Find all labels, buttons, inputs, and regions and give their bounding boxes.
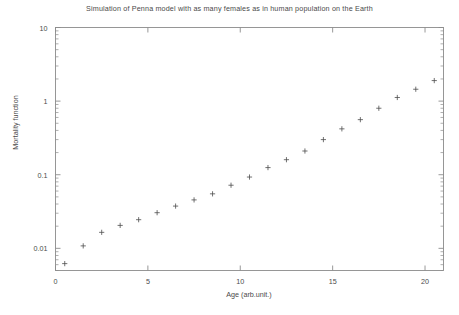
plot-frame (56, 28, 444, 271)
chart-figure: Simulation of Penna model with as many f… (0, 0, 459, 315)
y-axis-tick-label: 0.01 (0, 244, 48, 253)
y-axis-tick-label: 0.1 (0, 170, 48, 179)
data-point-marker (284, 157, 289, 162)
plot-area (0, 0, 459, 315)
data-point-marker (155, 210, 160, 215)
data-point-marker (136, 217, 141, 222)
data-point-marker (376, 106, 381, 111)
data-series (62, 78, 437, 266)
x-axis-tick-label: 10 (236, 277, 244, 286)
data-point-marker (358, 117, 363, 122)
data-point-marker (265, 165, 270, 170)
x-axis-tick-label: 20 (421, 277, 429, 286)
data-point-marker (173, 203, 178, 208)
data-point-marker (302, 148, 307, 153)
data-point-marker (413, 87, 418, 92)
data-point-marker (247, 174, 252, 179)
x-axis-tick-label: 0 (54, 277, 58, 286)
data-point-marker (118, 223, 123, 228)
data-point-marker (395, 95, 400, 100)
x-axis-tick-label: 5 (146, 277, 150, 286)
data-point-marker (81, 243, 86, 248)
data-point-marker (339, 126, 344, 131)
data-point-marker (191, 197, 196, 202)
data-point-marker (321, 137, 326, 142)
data-point-marker (99, 230, 104, 235)
data-point-marker (62, 261, 67, 266)
y-axis-tick-label: 1 (0, 97, 48, 106)
data-point-marker (210, 191, 215, 196)
x-axis-tick-label: 15 (329, 277, 337, 286)
y-axis-tick-label: 10 (0, 23, 48, 32)
data-point-marker (432, 78, 437, 83)
data-point-marker (228, 183, 233, 188)
